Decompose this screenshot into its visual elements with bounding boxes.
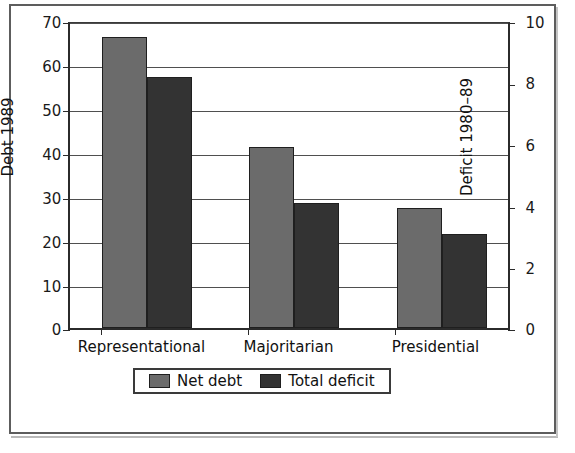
tick-right-0	[508, 330, 515, 331]
ytick-label-left-50: 50	[42, 104, 61, 119]
x-category-label-1: Majoritarian	[215, 338, 362, 356]
tick-right-4	[508, 208, 515, 209]
ytick-label-left-10: 10	[42, 280, 61, 295]
y-axis-title-left: Debt 1989	[0, 77, 17, 197]
bar-net-debt-majoritarian	[249, 147, 294, 328]
ytick-label-right-4: 4	[526, 201, 536, 216]
x-category-label-2: Presidential	[362, 338, 509, 356]
bar-net-debt-representational	[102, 37, 147, 328]
ytick-label-left-30: 30	[42, 192, 61, 207]
plot-area: 70 60 50 40 30 20 10 0 10 8 6 4 2 0	[68, 22, 510, 330]
ytick-label-right-6: 6	[526, 139, 536, 154]
tick-right-6	[508, 146, 515, 147]
ytick-label-left-20: 20	[42, 236, 61, 251]
tick-right-8	[508, 85, 515, 86]
chart-legend: Net debt Total deficit	[133, 368, 391, 394]
legend-label-net-debt: Net debt	[177, 372, 242, 390]
legend-label-total-deficit: Total deficit	[288, 372, 374, 390]
gridline-70	[70, 23, 508, 24]
ytick-label-right-0: 0	[526, 323, 536, 338]
tick-left-10	[63, 287, 70, 288]
tick-right-10	[508, 23, 515, 24]
bar-total-deficit-presidential	[442, 234, 487, 328]
ytick-label-left-60: 60	[42, 60, 61, 75]
figure-frame-shadow-bottom	[11, 436, 558, 438]
legend-swatch-total-deficit-icon	[260, 374, 281, 388]
ytick-label-left-0: 0	[52, 323, 62, 338]
tick-left-70	[63, 23, 70, 24]
tick-right-2	[508, 269, 515, 270]
x-category-label-0: Representational	[68, 338, 215, 356]
tick-left-30	[63, 199, 70, 200]
legend-item-total-deficit: Total deficit	[260, 372, 374, 390]
chart-figure: 70 60 50 40 30 20 10 0 10 8 6 4 2 0	[0, 0, 575, 453]
xtick-sep-0	[101, 328, 102, 335]
ytick-label-right-8: 8	[526, 77, 536, 92]
tick-left-50	[63, 111, 70, 112]
tick-left-20	[63, 243, 70, 244]
tick-left-60	[63, 67, 70, 68]
ytick-label-left-70: 70	[42, 16, 61, 31]
y-axis-title-right: Deficit 1980–89	[458, 62, 476, 212]
figure-frame-shadow-right	[556, 7, 558, 437]
ytick-label-right-10: 10	[526, 16, 545, 31]
ytick-label-right-2: 2	[526, 262, 536, 277]
bar-total-deficit-representational	[147, 77, 192, 328]
tick-left-0	[63, 330, 70, 331]
bar-net-debt-presidential	[397, 208, 442, 328]
xtick-sep-2	[395, 328, 396, 335]
bar-total-deficit-majoritarian	[294, 203, 339, 328]
xtick-sep-1	[248, 328, 249, 335]
ytick-label-left-40: 40	[42, 148, 61, 163]
tick-left-40	[63, 155, 70, 156]
legend-item-net-debt: Net debt	[149, 372, 242, 390]
legend-swatch-net-debt-icon	[149, 374, 170, 388]
